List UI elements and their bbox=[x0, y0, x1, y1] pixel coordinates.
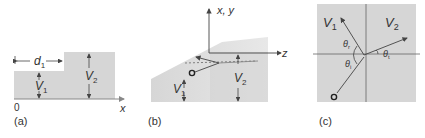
origin-label: 0 bbox=[14, 102, 20, 113]
panel-c: V1 V2 θr θi θt (c) bbox=[313, 4, 420, 127]
caption-c: (c) bbox=[319, 115, 332, 127]
panel-a: d1 V1 V2 0 x (a) bbox=[14, 52, 126, 127]
figure: d1 V1 V2 0 x (a) x, y z V1 V2 bbox=[0, 0, 425, 138]
z-axis-label: z bbox=[281, 47, 288, 59]
caption-a: (a) bbox=[14, 115, 27, 127]
caption-b: (b) bbox=[148, 115, 161, 127]
xy-axis-label: x, y bbox=[216, 4, 236, 16]
potential-step-region bbox=[14, 52, 115, 99]
d1-label: d1 bbox=[34, 54, 46, 70]
panel-b: x, y z V1 V2 (b) bbox=[148, 4, 288, 127]
x-axis-label: x bbox=[119, 102, 126, 114]
interface-plane bbox=[317, 4, 416, 102]
